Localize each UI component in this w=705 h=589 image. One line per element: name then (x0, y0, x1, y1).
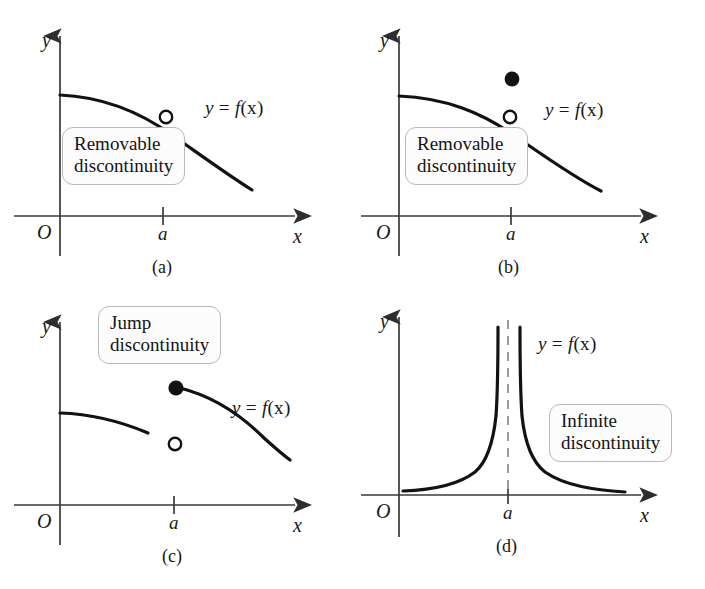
x-axis-label: x (293, 515, 302, 535)
panel-caption-a: (a) (152, 258, 172, 276)
callout-line-1: Removable (417, 133, 516, 155)
y-axis-label: y (380, 311, 389, 331)
panel-a: y x O a y = f(x) Removable discontinuity… (0, 0, 352, 294)
callout-line-2: discontinuity (74, 155, 173, 177)
function-label-eq: = (219, 97, 230, 118)
origin-label: O (37, 222, 51, 242)
callout-infinite-d: Infinite discontinuity (549, 404, 672, 462)
open-circle-marker (504, 111, 516, 123)
function-label: y = f(x) (205, 98, 264, 117)
filled-dot-marker (505, 72, 520, 87)
function-label: y = f(x) (545, 100, 604, 119)
callout-line-2: discontinuity (561, 432, 660, 454)
callout-line-2: discontinuity (110, 334, 209, 356)
discontinuity-figure: y x O a y = f(x) Removable discontinuity… (0, 0, 705, 589)
function-label-arg: (x) (267, 397, 290, 418)
function-label-eq: = (246, 397, 257, 418)
function-label-arg: (x) (240, 97, 263, 118)
callout-removable-a: Removable discontinuity (62, 127, 185, 185)
function-label-eq: = (559, 99, 570, 120)
function-label-eq: = (552, 333, 563, 354)
origin-label: O (376, 501, 390, 521)
x-tick-label-a: a (506, 224, 516, 243)
callout-jump-c: Jump discontinuity (98, 306, 221, 364)
x-tick-label-a: a (158, 224, 168, 243)
callout-line-2: discontinuity (417, 155, 516, 177)
origin-label: O (376, 222, 390, 242)
callout-line-1: Removable (74, 133, 173, 155)
x-tick-label-a: a (503, 503, 513, 522)
panel-caption-d: (d) (496, 537, 517, 555)
open-circle-marker (169, 438, 181, 450)
function-label-arg: (x) (573, 333, 596, 354)
function-label-lhs: y (232, 397, 241, 418)
filled-dot-marker (168, 380, 183, 395)
callout-removable-b: Removable discontinuity (405, 127, 528, 185)
y-axis-label: y (42, 30, 51, 50)
origin-label: O (37, 511, 51, 531)
x-axis-label: x (293, 226, 302, 246)
panel-d: y x O a y = f(x) Infinite discontinuity … (353, 292, 705, 586)
function-label-lhs: y (205, 97, 214, 118)
y-axis-label: y (380, 30, 389, 50)
x-axis-label: x (640, 226, 649, 246)
x-axis-label: x (640, 505, 649, 525)
function-label-arg: (x) (580, 99, 603, 120)
function-curve-left (403, 327, 498, 491)
callout-line-1: Jump (110, 312, 209, 334)
x-tick-label-a: a (169, 513, 179, 532)
panel-caption-c: (c) (162, 547, 182, 565)
callout-line-1: Infinite (561, 410, 660, 432)
function-label: y = f(x) (232, 398, 291, 417)
function-label-lhs: y (538, 333, 547, 354)
panel-b: y x O a y = f(x) Removable discontinuity… (353, 0, 705, 294)
open-circle-marker (160, 111, 172, 123)
y-axis-label: y (42, 316, 51, 336)
panel-caption-b: (b) (498, 258, 519, 276)
panel-c: y x O a y = f(x) Jump discontinuity (c) (0, 292, 352, 586)
function-label-lhs: y (545, 99, 554, 120)
function-curve-left (60, 413, 148, 433)
function-label: y = f(x) (538, 334, 597, 353)
